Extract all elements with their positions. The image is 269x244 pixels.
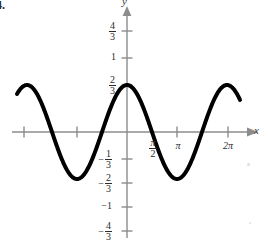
fraction-2-3-neg: 2 3 — [105, 173, 112, 194]
x-tick-label-pi: π — [165, 140, 191, 151]
fraction-pi-2: π 2 — [149, 138, 156, 159]
minus-sign: − — [98, 154, 105, 165]
y-tick-label-4-3: 4 3 — [86, 21, 116, 42]
y-axis-label: y — [122, 0, 127, 7]
value-neg-1: −1 — [101, 200, 112, 211]
fraction-4-3-neg: 4 3 — [105, 221, 112, 242]
cosine-graph-svg — [0, 0, 269, 244]
minus-sign: − — [98, 226, 105, 237]
x-tick-label-2pi: 2π — [215, 140, 241, 151]
y-tick-label-neg-2-3: − 2 3 — [82, 173, 112, 194]
y-tick-label-neg-1: −1 — [82, 200, 112, 211]
y-tick-label-1: 1 — [86, 51, 116, 62]
y-axis-arrow — [123, 6, 132, 16]
value-1: 1 — [111, 51, 116, 62]
scan-speck — [247, 163, 250, 166]
value-2pi: 2π — [223, 140, 233, 151]
fraction-2-3: 2 3 — [109, 75, 116, 96]
fraction-1-3: 1 3 — [105, 149, 112, 170]
scan-speck — [249, 222, 251, 224]
y-tick-label-neg-1-3: − 1 3 — [82, 149, 112, 170]
minus-sign: − — [98, 178, 105, 189]
value-pi: π — [175, 140, 180, 151]
graph-figure: 4. y x — [0, 0, 269, 244]
y-tick-label-neg-4-3: − 4 3 — [82, 221, 112, 242]
y-tick-label-2-3: 2 3 — [86, 75, 116, 96]
fraction-4-3: 4 3 — [109, 21, 116, 42]
x-axis-label: x — [254, 124, 259, 136]
x-tick-label-pi-over-2: π 2 — [140, 138, 166, 159]
